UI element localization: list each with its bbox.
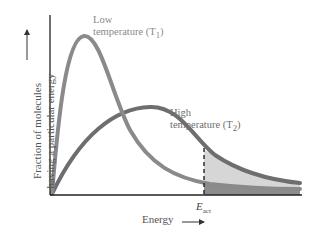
low-temp-label-line1: Low [93, 14, 164, 26]
high-temp-subscript: 2 [233, 123, 237, 133]
eact-label: Eact [196, 200, 211, 215]
low-temp-subscript: 1 [156, 30, 160, 40]
high-temp-label-line1: High [170, 107, 241, 119]
low-temp-label: Low temperature (T1) [93, 14, 164, 41]
y-axis-label-line1: Fraction of molecules [31, 51, 44, 211]
low-temp-label-line2: temperature (T1) [93, 26, 164, 41]
x-axis-label: Energy [142, 213, 174, 225]
eact-subscript: act [203, 207, 211, 215]
eact-main: E [196, 200, 203, 212]
high-temp-label: High temperature (T2) [170, 107, 241, 134]
y-axis-label-line2: having a particular energy [44, 51, 57, 211]
high-temp-text: temperature (T [170, 119, 233, 130]
high-temp-label-line2: temperature (T2) [170, 119, 241, 134]
y-axis-label: Fraction of molecules having a particula… [31, 51, 57, 211]
low-temp-text: temperature (T [93, 26, 156, 37]
